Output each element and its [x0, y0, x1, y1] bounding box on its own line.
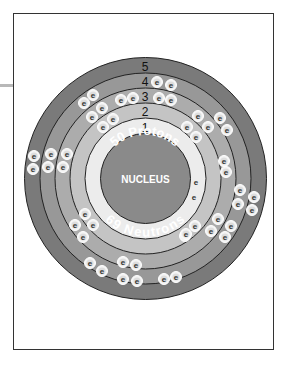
svg-text:e: e: [169, 81, 174, 90]
svg-text:e: e: [206, 123, 211, 132]
svg-text:e: e: [100, 267, 105, 276]
electron: e: [70, 220, 81, 231]
svg-text:e: e: [238, 186, 243, 195]
electron: e: [88, 90, 99, 101]
svg-text:e: e: [196, 112, 201, 121]
electron: e: [235, 185, 246, 196]
svg-text:e: e: [193, 222, 198, 231]
svg-text:e: e: [252, 193, 257, 202]
svg-text:e: e: [83, 210, 88, 219]
svg-text:e: e: [81, 233, 86, 242]
electron: e: [182, 122, 193, 133]
electron: e: [87, 112, 98, 123]
shell-label-2: 2: [142, 105, 149, 119]
electron: e: [46, 149, 57, 160]
svg-text:e: e: [222, 157, 227, 166]
electron: e: [203, 122, 214, 133]
electron: e: [191, 132, 202, 143]
shell-label-3: 3: [142, 90, 149, 104]
electron: e: [233, 199, 244, 210]
svg-text:e: e: [223, 233, 228, 242]
svg-text:e: e: [218, 114, 223, 123]
shell-label-4: 4: [142, 75, 149, 89]
electron: e: [97, 103, 108, 114]
electron: e: [166, 80, 177, 91]
svg-text:e: e: [224, 168, 229, 177]
electron: e: [58, 162, 69, 173]
electron: e: [85, 258, 96, 269]
electron: e: [220, 232, 231, 243]
electron: e: [222, 125, 233, 136]
svg-text:e: e: [184, 230, 189, 239]
svg-text:e: e: [157, 94, 162, 103]
electron: e: [118, 274, 129, 285]
svg-text:e: e: [49, 150, 54, 159]
electron: e: [190, 221, 201, 232]
svg-text:e: e: [61, 163, 66, 172]
svg-text:e: e: [194, 133, 199, 142]
electron: e: [247, 205, 258, 216]
electron: e: [154, 93, 165, 104]
svg-text:e: e: [121, 258, 126, 267]
svg-text:e: e: [229, 222, 234, 231]
svg-text:e: e: [155, 78, 160, 87]
svg-text:e: e: [174, 273, 179, 282]
electron: e: [215, 113, 226, 124]
electron: e: [128, 93, 139, 104]
electron: e: [97, 266, 108, 277]
svg-text:e: e: [32, 152, 37, 161]
svg-text:e: e: [88, 259, 93, 268]
svg-text:e: e: [91, 91, 96, 100]
svg-text:e: e: [135, 277, 140, 286]
svg-text:e: e: [250, 206, 255, 215]
electron: e: [79, 98, 90, 109]
electron: e: [226, 221, 237, 232]
svg-text:e: e: [119, 96, 124, 105]
electron: e: [192, 193, 197, 202]
svg-text:e: e: [236, 200, 241, 209]
electron: e: [194, 178, 199, 187]
svg-text:e: e: [134, 261, 139, 270]
svg-text:e: e: [121, 275, 126, 284]
svg-text:e: e: [131, 94, 136, 103]
electron: e: [159, 274, 170, 285]
svg-text:e: e: [91, 221, 96, 230]
svg-text:e: e: [31, 165, 36, 174]
svg-text:e: e: [209, 227, 214, 236]
electron: e: [132, 276, 143, 287]
svg-text:e: e: [65, 150, 70, 159]
electron: e: [43, 162, 54, 173]
electron: e: [181, 229, 192, 240]
svg-text:e: e: [100, 104, 105, 113]
electron: e: [219, 156, 230, 167]
electron: e: [249, 192, 260, 203]
electron: e: [206, 226, 217, 237]
svg-text:e: e: [46, 163, 51, 172]
electron: e: [98, 122, 109, 133]
electron: e: [131, 260, 142, 271]
electron: e: [88, 220, 99, 231]
electron: e: [80, 209, 91, 220]
svg-text:e: e: [225, 126, 230, 135]
electron: e: [108, 114, 119, 125]
electron: e: [28, 164, 39, 175]
electron: e: [29, 151, 40, 162]
svg-text:e: e: [185, 123, 190, 132]
svg-text:e: e: [162, 275, 167, 284]
electron: e: [78, 232, 89, 243]
svg-text:e: e: [73, 221, 78, 230]
svg-text:e: e: [90, 113, 95, 122]
nucleus-label: NUCLEUS: [121, 174, 170, 185]
svg-text:e: e: [169, 96, 174, 105]
electron: e: [171, 272, 182, 283]
svg-text:e: e: [101, 123, 106, 132]
electron: e: [118, 257, 129, 268]
electron: e: [213, 214, 224, 225]
shell-label-5: 5: [142, 60, 149, 74]
svg-text:e: e: [82, 99, 87, 108]
electron: e: [152, 77, 163, 88]
electron: e: [62, 149, 73, 160]
electron: e: [221, 167, 232, 178]
atom-diagram: 5 4 3 2 1 50 Protons NUCLEUS 69 Neutrons…: [0, 0, 290, 365]
svg-text:e: e: [111, 115, 116, 124]
